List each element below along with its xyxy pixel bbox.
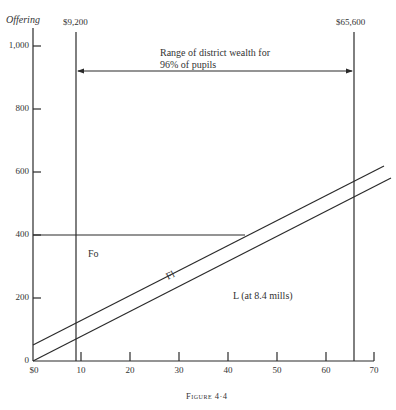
vline-right-label: $65,600 <box>336 17 365 27</box>
y-axis-title: Offering <box>6 14 40 25</box>
x-tick-label: 20 <box>118 365 142 375</box>
x-tick-label: 40 <box>216 365 240 375</box>
region-label-l: L (at 8.4 mills) <box>233 290 293 301</box>
x-tick-label: 60 <box>314 365 338 375</box>
y-tick-label: 600 <box>5 166 29 176</box>
y-axis-ticks <box>33 46 41 298</box>
x-tick-label: $0 <box>22 365 46 375</box>
x-tick-label: 50 <box>265 365 289 375</box>
fl-line <box>33 166 384 345</box>
y-tick-label: 0 <box>5 355 29 365</box>
l-line <box>33 178 391 361</box>
x-tick-label: 70 <box>362 365 386 375</box>
figure-caption: Figure 4·4 <box>186 391 228 401</box>
y-tick-label: 400 <box>5 229 29 239</box>
y-tick-label: 200 <box>5 292 29 302</box>
vline-left-label: $9,200 <box>63 17 88 27</box>
range-annotation: Range of district wealth for 96% of pupi… <box>160 47 270 71</box>
y-tick-label: 1,000 <box>5 40 29 50</box>
range-text-line1: Range of district wealth for <box>160 47 270 59</box>
y-tick-label: 800 <box>5 103 29 113</box>
x-tick-label: 10 <box>69 365 93 375</box>
x-axis-ticks <box>81 352 374 361</box>
range-text-line2: 96% of pupils <box>160 59 270 71</box>
x-tick-label: 30 <box>167 365 191 375</box>
region-label-fo: Fo <box>88 248 99 259</box>
